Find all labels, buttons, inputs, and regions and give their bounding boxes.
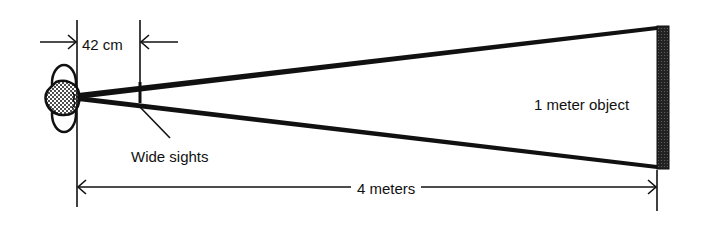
object-distance-label: 4 meters bbox=[351, 181, 421, 196]
wide-sights-label: Wide sights bbox=[131, 149, 209, 164]
object-bar bbox=[657, 26, 669, 169]
sight-distance-label: 42 cm bbox=[82, 37, 123, 52]
object-label: 1 meter object bbox=[534, 97, 629, 112]
observer-head-icon bbox=[46, 65, 80, 132]
sights-leader-line bbox=[140, 107, 170, 138]
